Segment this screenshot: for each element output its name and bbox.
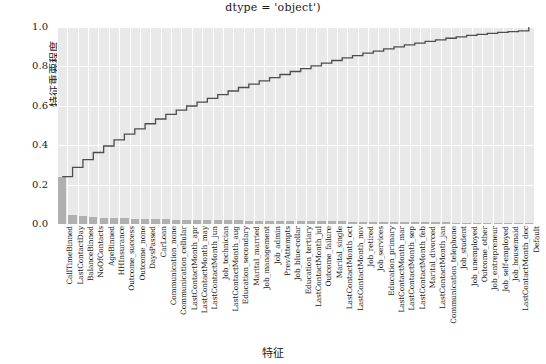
x-tick-label: Communication_telephone bbox=[449, 226, 458, 324]
x-tick-label: LastContactMonth_dec bbox=[521, 226, 530, 311]
cumulative-line bbox=[57, 27, 534, 224]
x-tick-label: Job_blue-collar bbox=[293, 226, 302, 280]
x-tick-label: HHInsurance bbox=[117, 226, 126, 275]
x-tick-label: Job_housemaid bbox=[511, 226, 520, 281]
chart-title: dtype = 'object') bbox=[0, 1, 546, 14]
x-tick-label: Outcome_none bbox=[138, 226, 147, 281]
x-tick-label: LastContactMonth_may bbox=[200, 226, 209, 313]
figure: dtype = 'object') 特征重要程度 0.00.20.40.60.8… bbox=[0, 0, 546, 364]
x-axis-label: 特征 bbox=[0, 344, 546, 360]
plot-area bbox=[57, 27, 534, 224]
y-tick-label: 0.6 bbox=[0, 100, 48, 111]
x-tick-label: LastContactMonth_nov bbox=[356, 226, 365, 311]
x-tick-label: Marital_single bbox=[335, 226, 344, 278]
y-tick-label: 0.0 bbox=[0, 218, 48, 229]
x-tick-label: Job_services bbox=[376, 226, 385, 271]
x-tick-label: Job_technician bbox=[221, 226, 230, 279]
x-tick-label: Default bbox=[532, 226, 541, 253]
x-tick-label: LastContactMonth_jan bbox=[438, 226, 447, 309]
x-tick-label: LastContactDay bbox=[76, 226, 85, 285]
x-tick-label: Marital_married bbox=[252, 226, 261, 286]
x-tick-label: Job_management bbox=[262, 226, 271, 289]
y-tick-label: 0.8 bbox=[0, 60, 48, 71]
x-tick-label: Outcome_failure bbox=[324, 226, 333, 287]
x-tick-label: LastContactMonth_jul bbox=[314, 226, 323, 307]
x-tick-label: LastContactMonth_apr bbox=[190, 226, 199, 310]
x-tick-label: Communication_cellular bbox=[179, 226, 188, 315]
x-tick-label: Job_entrepreneur bbox=[490, 226, 499, 290]
x-tick-label: CarLoan bbox=[159, 226, 168, 257]
x-tick-label: LastContactMonth_mar bbox=[397, 226, 406, 313]
x-tick-label: Education_secondary bbox=[241, 226, 250, 304]
y-tick-label: 1.0 bbox=[0, 21, 48, 32]
x-tick-label: Marital_divorced bbox=[428, 226, 437, 288]
x-tick-label: LastContactMonth_sep bbox=[407, 226, 416, 311]
x-tick-label: PrevAttempts bbox=[283, 226, 292, 276]
x-tick-label: BalanceBinned bbox=[86, 226, 95, 281]
x-tick-label: LastContactMonth_jun bbox=[210, 226, 219, 309]
x-tick-label: NoOfContacts bbox=[96, 226, 105, 278]
x-tick-label: Outcome_success bbox=[127, 226, 136, 291]
x-tick-label: LastContactMonth_aug bbox=[231, 226, 240, 312]
x-tick-label: Education_primary bbox=[387, 226, 396, 296]
x-axis-ticks: CallTimeBinnedLastContactDayBalanceBinne… bbox=[57, 226, 534, 344]
x-tick-label: Education_tertiary bbox=[304, 226, 313, 294]
x-tick-label: LastContactMonth_feb bbox=[418, 226, 427, 309]
x-tick-label: AgeBinned bbox=[107, 226, 116, 266]
x-tick-label: Job_unemployed bbox=[470, 226, 479, 286]
x-tick-label: Job_self-employed bbox=[501, 226, 510, 292]
x-tick-label: Job_student bbox=[459, 226, 468, 269]
x-tick-label: Job_retired bbox=[366, 226, 375, 267]
cumulative-path bbox=[62, 27, 529, 177]
x-tick-label: Communication_none bbox=[169, 226, 178, 305]
y-tick-label: 0.2 bbox=[0, 179, 48, 190]
y-tick-label: 0.4 bbox=[0, 139, 48, 150]
x-tick-label: LastContactMonth_oct bbox=[345, 226, 354, 309]
x-tick-label: Job_admin bbox=[273, 226, 282, 264]
x-tick-label: DaysPassed bbox=[148, 226, 157, 269]
x-tick-label: Outcome_other bbox=[480, 226, 489, 282]
x-tick-label: CallTimeBinned bbox=[65, 226, 74, 284]
